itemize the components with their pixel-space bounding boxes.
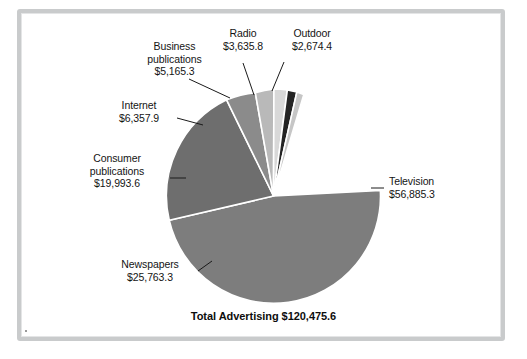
label-radio-name: Radio xyxy=(205,27,281,40)
label-newspapers-value: $25,763.3 xyxy=(106,271,194,284)
label-consumer-publications-value: $19,993.6 xyxy=(68,177,166,190)
label-business-publications-value: $5,165.3 xyxy=(127,65,222,78)
label-radio: Radio $3,635.8 xyxy=(205,27,281,52)
label-outdoor-value: $2,674.4 xyxy=(274,40,350,53)
label-consumer-publications-name-line2: publications xyxy=(68,165,166,178)
label-business-publications-name-line2: publications xyxy=(127,53,222,66)
screenshot-root: Business publications $5,165.3 Radio $3,… xyxy=(0,0,527,359)
label-internet-value: $6,357.9 xyxy=(103,112,175,125)
label-internet-name: Internet xyxy=(103,99,175,112)
label-consumer-publications: Consumer publications $19,993.6 xyxy=(68,152,166,190)
label-radio-value: $3,635.8 xyxy=(205,40,281,53)
label-television-name: Television xyxy=(389,175,484,188)
pie-chart-figure: Business publications $5,165.3 Radio $3,… xyxy=(0,0,527,359)
label-internet: Internet $6,357.9 xyxy=(103,99,175,124)
label-consumer-publications-name-line1: Consumer xyxy=(68,152,166,165)
label-television: Television $56,885.3 xyxy=(389,175,484,200)
total-advertising-caption: Total Advertising $120,475.6 xyxy=(0,310,527,322)
label-television-value: $56,885.3 xyxy=(389,188,484,201)
leader-line-radio xyxy=(243,63,254,95)
leader-line-business-publications xyxy=(189,79,230,98)
leader-line-outdoor xyxy=(272,62,284,91)
label-outdoor-name: Outdoor xyxy=(274,27,350,40)
label-outdoor: Outdoor $2,674.4 xyxy=(274,27,350,52)
label-newspapers-name: Newspapers xyxy=(106,258,194,271)
label-newspapers: Newspapers $25,763.3 xyxy=(106,258,194,283)
